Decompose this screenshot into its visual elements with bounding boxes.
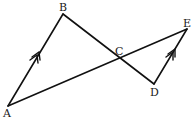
segment-ab	[8, 14, 63, 106]
label-d: D	[150, 86, 159, 99]
parallel-marker-de-icon	[166, 49, 175, 60]
label-b: B	[59, 1, 67, 14]
label-c: C	[115, 45, 123, 58]
geometry-diagram: B A C D E	[0, 0, 192, 118]
segment-de	[154, 29, 187, 84]
label-a: A	[2, 107, 12, 118]
label-e: E	[183, 17, 191, 30]
